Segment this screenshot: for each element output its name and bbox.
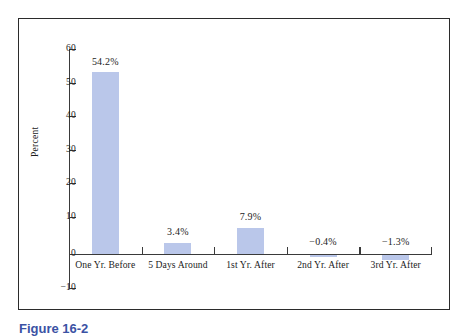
y-tick-label: 50 — [32, 78, 76, 88]
x-tick-mark — [287, 247, 288, 255]
bar-2nd-yr-after — [310, 255, 337, 256]
chart-plot-area: Percent 60 50 40 30 20 10 0 — [19, 19, 451, 311]
x-tick-mark — [359, 247, 360, 255]
figure-frame: Percent 60 50 40 30 20 10 0 — [18, 18, 450, 310]
y-tick-label: 0 — [32, 249, 76, 259]
x-tick-mark — [214, 247, 215, 255]
bar-value-label: −0.4% — [283, 237, 363, 247]
bar-5-days-around — [164, 243, 191, 254]
bar-value-label: 7.9% — [211, 212, 291, 222]
bar-1st-yr-after — [237, 228, 264, 255]
bar-value-label: 54.2% — [65, 57, 145, 67]
category-label-3rd-yr-after: 3rd Yr. After — [346, 260, 446, 270]
y-tick-label: −10 — [32, 283, 76, 293]
y-tick-label: 10 — [32, 212, 76, 222]
y-tick-label: 60 — [32, 44, 76, 54]
x-tick-mark — [431, 247, 432, 255]
y-tick-label: 30 — [32, 145, 76, 155]
bar-value-label: −1.3% — [356, 237, 436, 247]
x-tick-mark — [142, 247, 143, 255]
bar-one-yr-before — [92, 72, 119, 254]
bar-value-label: 3.4% — [138, 227, 218, 237]
y-tick-label: 40 — [32, 111, 76, 121]
x-axis-line — [69, 254, 432, 255]
figure-caption: Figure 16-2 — [19, 322, 88, 336]
y-tick-label: 20 — [32, 178, 76, 188]
